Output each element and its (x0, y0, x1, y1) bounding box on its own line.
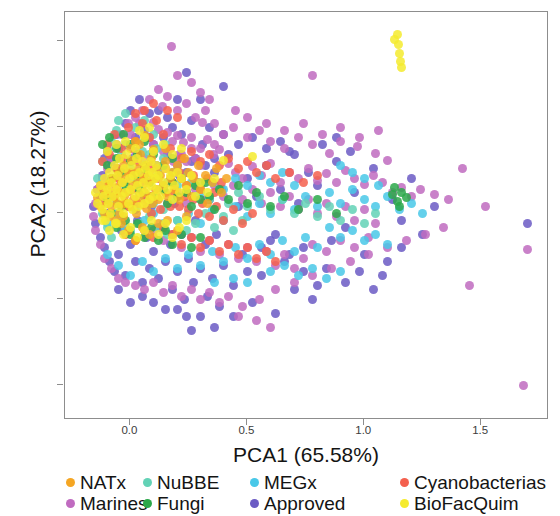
legend-label: Cyanobacterias (414, 473, 546, 492)
legend-item-marines[interactable]: Marines (66, 494, 148, 513)
scatter-point (322, 247, 331, 256)
scatter-point (313, 243, 322, 252)
scatter-point (350, 216, 359, 225)
x-tick-mark (246, 419, 247, 425)
scatter-point (138, 257, 147, 266)
scatter-point (187, 326, 196, 335)
legend-item-natx[interactable]: NATx (66, 473, 126, 492)
scatter-point (219, 82, 228, 91)
scatter-point (364, 250, 373, 259)
scatter-point (194, 161, 203, 170)
scatter-point (106, 209, 115, 218)
scatter-point (121, 137, 130, 146)
scatter-point (308, 140, 317, 149)
scatter-point (119, 209, 128, 218)
scatter-point (336, 267, 345, 276)
scatter-point (152, 161, 161, 170)
scatter-point (430, 202, 439, 211)
scatter-point (439, 223, 448, 232)
scatter-point (325, 188, 334, 197)
scatter-point (371, 219, 380, 228)
scatter-point (313, 281, 322, 290)
scatter-point (341, 278, 350, 287)
scatter-point (369, 171, 378, 180)
scatter-point (182, 312, 191, 321)
scatter-point (374, 126, 383, 135)
scatter-point (175, 223, 184, 232)
legend-label: Fungi (157, 494, 205, 513)
scatter-point (187, 233, 196, 242)
scatter-point (103, 250, 112, 259)
scatter-point (378, 271, 387, 280)
scatter-point (481, 202, 490, 211)
scatter-point (290, 181, 299, 190)
scatter-point (325, 149, 334, 158)
scatter-point (131, 109, 140, 118)
scatter-point (159, 288, 168, 297)
scatter-point (140, 106, 149, 115)
legend-item-nubbe[interactable]: NuBBE (143, 473, 219, 492)
scatter-point (294, 205, 303, 214)
scatter-point (182, 99, 191, 108)
scatter-point (360, 236, 369, 245)
scatter-point (371, 230, 380, 239)
legend-label: BioFacQuim (414, 494, 519, 513)
scatter-point (350, 243, 359, 252)
y-tick-mark (57, 384, 63, 385)
scatter-point (196, 144, 205, 153)
scatter-point (187, 147, 196, 156)
scatter-point (322, 169, 331, 178)
scatter-point (210, 205, 219, 214)
scatter-point (280, 144, 289, 153)
scatter-point (238, 302, 247, 311)
legend-item-fungi[interactable]: Fungi (143, 494, 205, 513)
x-tick-mark (129, 419, 130, 425)
scatter-point (299, 119, 308, 128)
scatter-point (180, 154, 189, 163)
scatter-point (318, 130, 327, 139)
scatter-point (243, 113, 252, 122)
x-tick-mark (363, 419, 364, 425)
scatter-point (91, 226, 100, 235)
scatter-point (161, 305, 170, 314)
scatter-point (252, 168, 261, 177)
scatter-point (205, 236, 214, 245)
legend-swatch-icon (250, 499, 259, 508)
scatter-point (327, 236, 336, 245)
scatter-point (266, 188, 275, 197)
legend-label: Approved (264, 494, 345, 513)
scatter-point (149, 278, 158, 287)
scatter-point (96, 240, 105, 249)
scatter-point (294, 133, 303, 142)
scatter-point (98, 216, 107, 225)
scatter-point (397, 63, 406, 72)
scatter-point (145, 123, 154, 132)
scatter-point (299, 243, 308, 252)
scatter-point (168, 233, 177, 242)
scatter-point (360, 219, 369, 228)
scatter-point (248, 209, 257, 218)
scatter-point (458, 164, 467, 173)
scatter-point (196, 295, 205, 304)
scatter-point (255, 295, 264, 304)
legend: NATxNuBBEMEGxCyanobacterias MarinesFungi… (0, 472, 560, 516)
scatter-point (336, 199, 345, 208)
legend-item-megx[interactable]: MEGx (250, 473, 317, 492)
scatter-point (322, 274, 331, 283)
scatter-point (355, 133, 364, 142)
scatter-point (152, 116, 161, 125)
scatter-point (154, 85, 163, 94)
legend-swatch-icon (400, 499, 409, 508)
scatter-point (353, 142, 362, 151)
scatter-point (266, 323, 275, 332)
y-axis-title: PCA2 (18.27%) (26, 54, 50, 314)
legend-item-biofacquim[interactable]: BioFacQuim (400, 494, 519, 513)
scatter-point (187, 78, 196, 87)
scatter-point (294, 271, 303, 280)
legend-item-cyanobacterias[interactable]: Cyanobacterias (400, 473, 546, 492)
scatter-point (262, 119, 271, 128)
scatter-point (271, 309, 280, 318)
x-axis-title: PCA1 (65.58%) (64, 443, 548, 467)
scatter-point (133, 233, 142, 242)
legend-item-approved[interactable]: Approved (250, 494, 345, 513)
